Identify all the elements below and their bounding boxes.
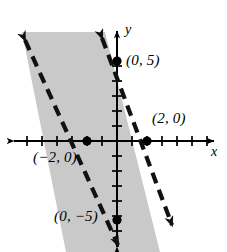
point-0-5 [112,56,121,65]
point-neg2-0 [82,136,91,145]
y-axis-label: y [125,22,131,38]
point-label-0-5: (0, 5) [126,52,160,69]
point-2-0 [142,136,151,145]
graph-figure: (0, 5) (2, 0) (−2, 0) (0, −5) x y [0,0,227,252]
x-axis-label: x [211,144,217,160]
point-0-neg5 [112,215,121,224]
coordinate-plane [0,0,227,252]
point-label-2-0: (2, 0) [152,110,186,127]
point-label-0-neg5: (0, −5) [54,208,98,225]
point-label-neg2-0: (−2, 0) [33,149,77,166]
